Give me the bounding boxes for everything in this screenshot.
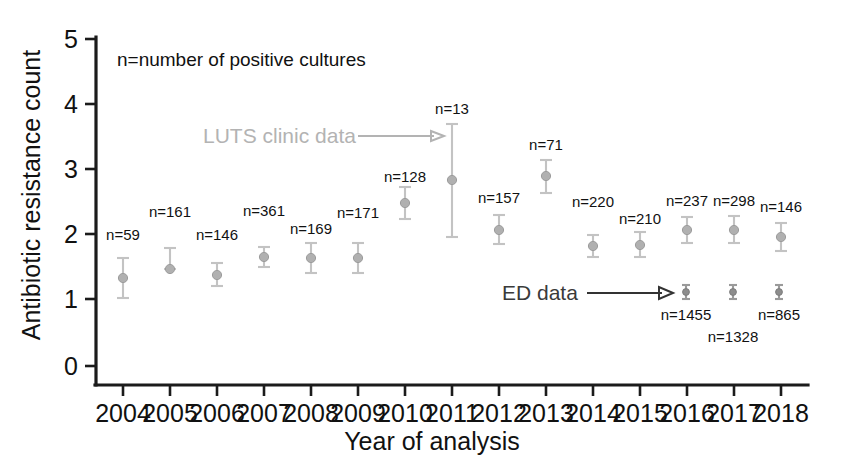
y-tick-label-3: 3 xyxy=(64,155,78,183)
y-tick-label-2: 2 xyxy=(64,220,78,248)
marker xyxy=(494,225,503,234)
x-axis-title: Year of analysis xyxy=(344,427,520,455)
n-label: n=59 xyxy=(106,226,140,243)
n-label: n=298 xyxy=(713,192,755,209)
marker xyxy=(683,289,690,296)
luts-series-label: LUTS clinic data xyxy=(203,124,356,147)
n-label: n=128 xyxy=(384,168,426,185)
data-point-2016: n=237 xyxy=(666,192,708,243)
data-point-2010: n=128 xyxy=(384,168,426,219)
marker xyxy=(259,252,268,261)
ed-data-point-2018: n=865 xyxy=(758,285,800,323)
n-label: n=171 xyxy=(337,204,379,221)
data-point-2004: n=59 xyxy=(106,226,140,298)
n-label: n=210 xyxy=(619,210,661,227)
data-point-2013: n=71 xyxy=(529,136,563,193)
data-point-2018: n=146 xyxy=(760,198,802,251)
marker xyxy=(729,225,738,234)
data-point-2006: n=146 xyxy=(196,226,238,286)
marker xyxy=(118,273,127,282)
n-label: n=220 xyxy=(572,193,614,210)
data-point-2012: n=157 xyxy=(478,189,520,244)
data-point-2007: n=361 xyxy=(243,202,285,267)
marker xyxy=(212,270,221,279)
n-label: n=71 xyxy=(529,136,563,153)
data-point-2014: n=220 xyxy=(572,193,614,257)
data-point-2009: n=171 xyxy=(337,204,379,273)
y-tick-label-1: 1 xyxy=(64,285,78,313)
ed-series-label: ED data xyxy=(502,281,578,304)
n-label: n=169 xyxy=(290,220,332,237)
marker xyxy=(541,171,550,180)
series-ed-data: n=1455 n=1328 n=865 xyxy=(661,285,800,345)
marker xyxy=(447,175,456,184)
n-label: n=146 xyxy=(760,198,802,215)
scatter-plot-svg: Antibiotic resistance count 5 4 3 2 1 0 … xyxy=(0,0,847,476)
n-label: n=865 xyxy=(758,306,800,323)
n-label: n=237 xyxy=(666,192,708,209)
n-label: n=1328 xyxy=(708,328,758,345)
data-point-2015: n=210 xyxy=(619,210,661,257)
marker xyxy=(776,289,783,296)
n-label: n=161 xyxy=(149,203,191,220)
n-label: n=361 xyxy=(243,202,285,219)
marker xyxy=(682,225,691,234)
n-label: n=157 xyxy=(478,189,520,206)
data-point-2011: n=13 xyxy=(435,100,469,237)
n-label: n=1455 xyxy=(661,306,711,323)
y-tick-label-4: 4 xyxy=(64,90,78,118)
n-label: n=146 xyxy=(196,226,238,243)
marker xyxy=(400,198,409,207)
marker xyxy=(306,253,315,262)
y-axis-title: Antibiotic resistance count xyxy=(17,50,45,340)
marker xyxy=(353,253,362,262)
ed-data-point-2017: n=1328 xyxy=(708,285,758,345)
n-label: n=13 xyxy=(435,100,469,117)
y-tick-group: 5 4 3 2 1 0 xyxy=(64,25,96,380)
y-tick-label-5: 5 xyxy=(64,25,78,53)
x-tick-group: 2004 2005 2006 2007 2008 2009 2010 2011 … xyxy=(95,385,809,427)
marker xyxy=(776,232,785,241)
data-point-2017: n=298 xyxy=(713,192,755,243)
figure-note: n=number of positive cultures xyxy=(117,49,366,70)
data-point-2005: n=161 xyxy=(149,203,191,274)
marker xyxy=(588,241,597,250)
x-tick-label-2018: 2018 xyxy=(753,399,809,427)
marker xyxy=(730,289,737,296)
chart-figure: Antibiotic resistance count 5 4 3 2 1 0 … xyxy=(0,0,847,476)
marker xyxy=(635,240,644,249)
marker xyxy=(165,264,174,273)
ed-annotation: ED data xyxy=(502,281,673,304)
y-tick-label-0: 0 xyxy=(64,352,78,380)
data-point-2008: n=169 xyxy=(290,220,332,273)
luts-annotation: LUTS clinic data xyxy=(203,124,444,147)
